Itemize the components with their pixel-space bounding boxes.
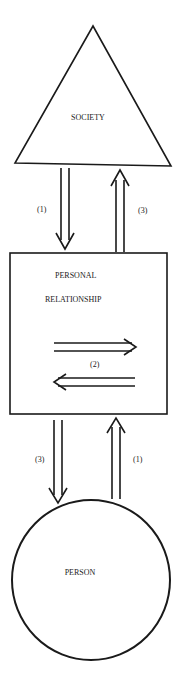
relationship-label-line1: PERSONAL <box>55 271 96 280</box>
arrow-label-relationship-to-society: (3) <box>138 206 148 215</box>
arrow-internal-right <box>54 339 136 355</box>
arrow-person-to-relationship <box>107 418 125 499</box>
arrow-internal-left <box>54 374 135 390</box>
arrow-label-relationship-to-person: (3) <box>35 455 45 464</box>
arrow-relationship-to-society <box>111 170 129 252</box>
relationship-label-line2: RELATIONSHIP <box>45 295 102 304</box>
society-label: SOCIETY <box>71 113 105 122</box>
arrow-label-society-to-relationship: (1) <box>37 205 47 214</box>
diagram-canvas: SOCIETY (1) (3) PERSONAL RELATIONSHIP (2… <box>0 0 182 680</box>
society-triangle <box>15 26 171 166</box>
arrow-label-internal: (2) <box>90 360 100 369</box>
arrow-label-person-to-relationship: (1) <box>133 455 143 464</box>
arrow-society-to-relationship <box>56 168 74 249</box>
arrow-relationship-to-person <box>49 420 67 503</box>
person-label: PERSON <box>65 568 96 577</box>
person-circle <box>12 500 170 660</box>
